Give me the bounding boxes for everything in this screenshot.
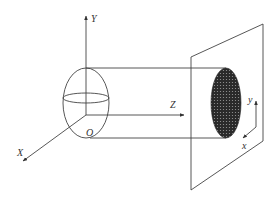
x-axis-label: X <box>16 147 24 158</box>
plane-x-label: x <box>241 140 247 151</box>
origin-label: O <box>86 127 93 138</box>
plane-x-axis <box>243 127 256 138</box>
shaded-projection-ellipse <box>211 68 241 138</box>
y-axis-label: Y <box>91 13 98 24</box>
x-axis <box>23 115 86 161</box>
z-axis-label: Z <box>170 99 176 110</box>
coordinate-diagram: Y Z X O y x <box>0 0 278 203</box>
plane-y-label: y <box>247 94 253 105</box>
